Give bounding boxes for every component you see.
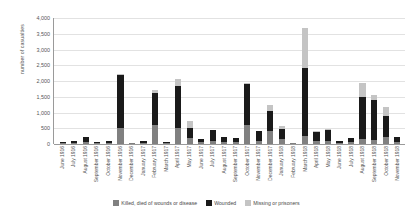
legend-item-missing[interactable]: Missing or prisoners [245,200,299,206]
bar-segment-killed[interactable] [175,128,181,144]
bar-slot [149,18,161,144]
bar-segment-killed[interactable] [198,142,204,144]
bar-segment-missing[interactable] [359,83,365,98]
stacked-bar[interactable] [279,126,285,144]
y-axis-tick-label: 4,000 [4,15,50,21]
x-axis-tick-label: June 1917 [195,146,207,198]
bar-segment-missing[interactable] [267,105,273,112]
bar-segment-killed[interactable] [359,139,365,144]
bar-segment-killed[interactable] [290,143,296,144]
bar-segment-killed[interactable] [313,141,319,144]
x-axis-tick-text: February 1917 [152,146,157,178]
bar-segment-killed[interactable] [348,142,354,144]
stacked-bar[interactable] [233,138,239,144]
bar-segment-wounded[interactable] [313,132,319,141]
stacked-bar[interactable] [383,107,389,144]
bar-segment-wounded[interactable] [175,86,181,129]
stacked-bar[interactable] [198,139,204,144]
x-axis-tick-text: February 1918 [291,146,296,178]
x-axis-tick-text: March 1917 [163,146,168,172]
stacked-bar[interactable] [221,137,227,144]
stacked-bar[interactable] [336,141,342,144]
bar-segment-wounded[interactable] [359,97,365,138]
stacked-bar[interactable] [129,143,135,144]
bar-segment-missing[interactable] [302,28,308,69]
legend-item-wounded[interactable]: Wounded [206,200,236,206]
bar-segment-missing[interactable] [383,107,389,116]
bar-segment-killed[interactable] [256,141,262,144]
stacked-bar[interactable] [140,141,146,144]
bar-segment-wounded[interactable] [244,84,250,124]
stacked-bar[interactable] [210,130,216,144]
bar-segment-killed[interactable] [140,143,146,144]
bar-segment-killed[interactable] [129,143,135,144]
stacked-bar[interactable] [83,137,89,144]
bar-segment-killed[interactable] [60,143,66,144]
stacked-bar[interactable] [187,121,193,144]
bar-segment-killed[interactable] [83,142,89,144]
bar-segment-wounded[interactable] [117,75,123,128]
bar-segment-wounded[interactable] [371,100,377,141]
bar-segment-killed[interactable] [71,143,77,144]
stacked-bar[interactable] [359,83,365,144]
stacked-bar[interactable] [302,28,308,144]
bar-segment-killed[interactable] [383,137,389,144]
y-axis-tick-label: 1,000 [4,110,50,116]
stacked-bar[interactable] [152,90,158,144]
bar-segment-wounded[interactable] [383,116,389,137]
bar-segment-wounded[interactable] [302,68,308,136]
bar-segment-missing[interactable] [187,121,193,128]
x-axis-tick-text: November 1916 [117,146,122,181]
bar-segment-killed[interactable] [94,143,100,144]
bar-segment-killed[interactable] [152,125,158,144]
bar-segment-wounded[interactable] [279,129,285,139]
x-axis-tick-label: January 1918 [276,146,288,198]
bar-segment-killed[interactable] [163,143,169,144]
bar-segment-killed[interactable] [106,143,112,144]
stacked-bar[interactable] [371,95,377,144]
stacked-bar[interactable] [313,131,319,144]
legend-swatch-wounded [206,200,212,206]
bar-segment-killed[interactable] [279,139,285,144]
stacked-bar[interactable] [163,142,169,144]
stacked-bar[interactable] [348,138,354,144]
y-axis-tick-label: 0 [4,141,50,147]
stacked-bar[interactable] [175,79,181,145]
bar-segment-killed[interactable] [371,140,377,144]
bar-slot [357,18,369,144]
bar-segment-killed[interactable] [210,141,216,144]
bar-segment-missing[interactable] [175,79,181,86]
bar-segment-killed[interactable] [336,143,342,144]
bar-segment-wounded[interactable] [256,131,262,141]
bar-segment-killed[interactable] [394,142,400,144]
bar-segment-wounded[interactable] [267,111,273,131]
bar-segment-wounded[interactable] [325,130,331,141]
bar-segment-killed[interactable] [117,128,123,144]
stacked-bar[interactable] [94,142,100,144]
bar-segment-killed[interactable] [325,141,331,144]
stacked-bar[interactable] [290,143,296,144]
bar-segment-killed[interactable] [244,125,250,144]
legend-item-killed[interactable]: Killed, died of wounds or disease [113,200,197,206]
bar-segment-wounded[interactable] [152,93,158,125]
stacked-bar[interactable] [71,141,77,144]
bar-segment-killed[interactable] [267,131,273,144]
stacked-bar[interactable] [256,131,262,144]
stacked-bar[interactable] [267,105,273,144]
bar-segment-killed[interactable] [233,142,239,144]
x-axis-tick-label: August 1916 [79,146,91,198]
stacked-bar[interactable] [117,74,123,144]
bar-segment-killed[interactable] [221,142,227,144]
bar-segment-killed[interactable] [302,136,308,144]
stacked-bar[interactable] [394,137,400,144]
bar-segment-killed[interactable] [187,138,193,144]
bar-slot [380,18,392,144]
bar-segment-wounded[interactable] [187,128,193,139]
stacked-bar[interactable] [325,129,331,144]
stacked-bar[interactable] [244,83,250,144]
bar-segment-wounded[interactable] [210,130,216,140]
x-axis-tick-label: August 1918 [357,146,369,198]
bar-slot [288,18,300,144]
stacked-bar[interactable] [106,141,112,144]
stacked-bar[interactable] [60,142,66,145]
